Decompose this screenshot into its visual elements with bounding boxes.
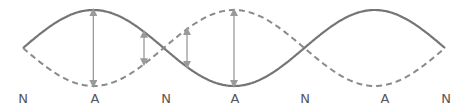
antinode-label: A: [381, 91, 390, 106]
node-antinode-labels: NANANAN: [18, 91, 451, 106]
node-label: N: [18, 91, 28, 106]
node-label: N: [300, 91, 310, 106]
antinode-label: A: [91, 91, 100, 106]
antinode-label: A: [231, 91, 240, 106]
node-label: N: [441, 91, 451, 106]
node-label: N: [161, 91, 171, 106]
standing-wave-diagram: NANANAN: [0, 0, 467, 109]
